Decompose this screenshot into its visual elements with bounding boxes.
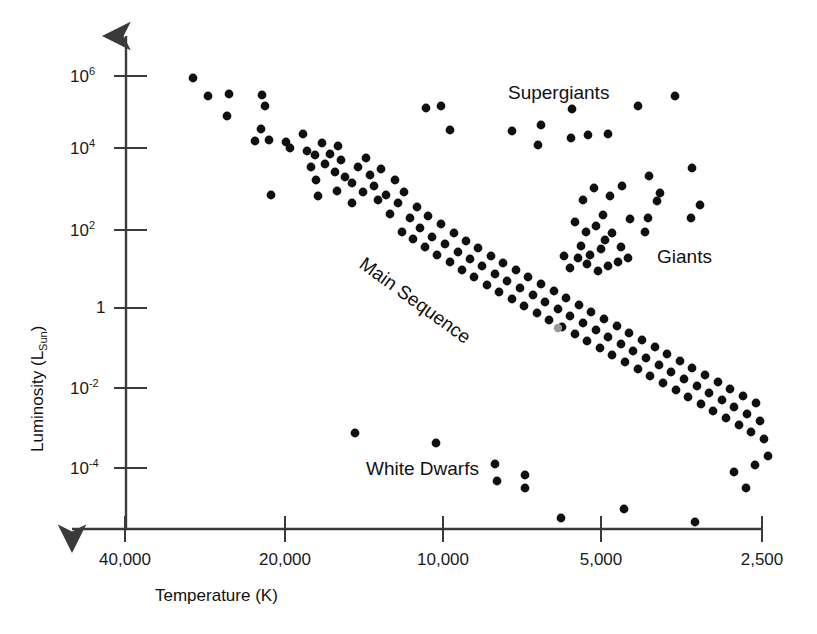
data-point — [663, 350, 672, 359]
data-point — [742, 484, 751, 493]
data-point — [331, 168, 340, 177]
data-point — [495, 288, 504, 297]
data-point — [416, 224, 425, 233]
data-point — [714, 378, 723, 387]
data-point — [382, 191, 391, 200]
data-point — [450, 229, 459, 238]
data-point — [437, 220, 446, 229]
x-tick-label-0: 40,000 — [99, 550, 151, 570]
data-point — [446, 126, 455, 135]
data-point — [693, 382, 702, 391]
data-point — [590, 184, 599, 193]
data-point — [333, 187, 342, 196]
data-point — [529, 291, 538, 300]
data-point — [314, 192, 323, 201]
data-point — [592, 222, 601, 231]
data-point — [624, 254, 633, 263]
data-point — [600, 315, 609, 324]
data-point — [592, 326, 601, 335]
data-point — [567, 134, 576, 143]
data-point — [638, 336, 647, 345]
data-point — [621, 358, 630, 367]
data-point — [261, 102, 270, 111]
data-point — [722, 414, 731, 423]
data-point — [560, 252, 569, 261]
data-point — [599, 211, 608, 220]
data-point — [752, 399, 761, 408]
data-point — [537, 280, 546, 289]
data-point — [351, 429, 360, 438]
data-point — [634, 365, 643, 374]
x-tick-label-4: 2,500 — [741, 550, 784, 570]
data-point — [409, 235, 418, 244]
data-point — [594, 267, 603, 276]
data-point — [454, 248, 463, 257]
data-point — [613, 322, 622, 331]
data-point — [617, 243, 626, 252]
data-point — [582, 228, 591, 237]
data-point — [756, 417, 765, 426]
y-axis-ticks — [114, 76, 147, 468]
data-point — [491, 460, 500, 469]
data-point — [398, 228, 407, 237]
data-point — [697, 400, 706, 409]
data-point — [493, 477, 502, 486]
data-point — [604, 130, 613, 139]
data-point — [337, 156, 346, 165]
data-point — [574, 254, 583, 263]
y-tick-label-3: 1 — [96, 298, 105, 318]
data-point — [537, 121, 546, 130]
data-point — [474, 244, 483, 253]
data-point — [568, 105, 577, 114]
data-point — [521, 484, 530, 493]
data-point — [629, 347, 638, 356]
plot-canvas — [0, 0, 817, 634]
data-point — [516, 284, 525, 293]
data-point — [645, 172, 654, 181]
data-point — [458, 266, 467, 275]
data-point — [267, 191, 276, 200]
data-point — [499, 259, 508, 268]
data-point — [258, 91, 267, 100]
data-point — [606, 192, 615, 201]
data-point — [550, 287, 559, 296]
data-point — [348, 179, 357, 188]
data-point — [524, 273, 533, 282]
data-point — [359, 188, 368, 197]
data-point — [586, 251, 595, 260]
data-point — [557, 514, 566, 523]
data-point — [676, 357, 685, 366]
data-point — [577, 242, 586, 251]
data-point — [625, 329, 634, 338]
data-point — [641, 228, 650, 237]
data-point — [508, 127, 517, 136]
data-point — [618, 182, 627, 191]
data-point — [307, 163, 316, 172]
data-point — [204, 92, 213, 101]
data-point — [341, 173, 350, 182]
data-point — [533, 309, 542, 318]
data-point — [487, 252, 496, 261]
data-point — [651, 343, 660, 352]
data-point — [684, 393, 693, 402]
data-point — [671, 92, 680, 101]
data-point — [730, 403, 739, 412]
x-tick-label-2: 10,000 — [417, 550, 469, 570]
data-point — [366, 171, 375, 180]
data-point — [508, 295, 517, 304]
data-point — [735, 421, 744, 430]
data-point — [503, 277, 512, 286]
data-point — [483, 281, 492, 290]
data-point — [470, 273, 479, 282]
data-point — [764, 452, 773, 461]
data-point — [667, 368, 676, 377]
data-point — [583, 337, 592, 346]
data-point — [691, 518, 700, 527]
data-point — [413, 203, 422, 212]
data-point — [596, 344, 605, 353]
data-point — [225, 90, 234, 99]
y-tick-label-0: 106 — [70, 65, 95, 87]
data-point — [696, 201, 705, 210]
data-point — [644, 214, 653, 223]
data-point — [566, 264, 575, 273]
